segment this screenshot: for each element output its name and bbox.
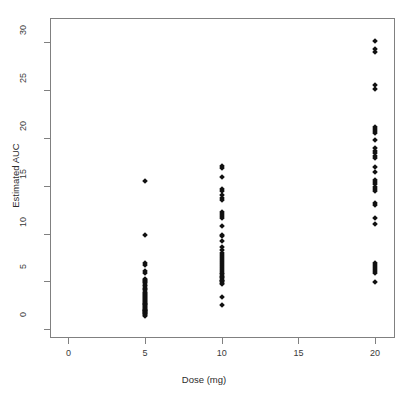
y-tick-mark [44,138,50,139]
y-tick-mark [44,186,50,187]
y-tick-label: 25 [6,84,40,96]
y-tick-label: 0 [6,323,40,335]
y-tick-mark [44,234,50,235]
y-tick-label-text: 25 [17,73,29,107]
x-tick-mark [68,338,69,344]
x-axis-title: Dose (mg) [0,374,408,385]
x-tick-label: 10 [207,348,237,358]
y-tick-label-text: 30 [17,25,29,59]
y-tick-mark [44,281,50,282]
x-tick-mark [222,338,223,344]
scatter-plot-figure: 051015202530 05101520 Estimated AUC Dose… [0,0,408,409]
y-tick-label: 5 [6,275,40,287]
x-tick-label: 0 [53,348,83,358]
y-tick-label-text: 5 [17,264,29,298]
plot-area-box [50,18,395,338]
x-tick-label: 20 [360,348,390,358]
x-tick-mark [375,338,376,344]
y-axis-title: Estimated AUC [10,106,21,246]
y-tick-mark [44,42,50,43]
x-tick-label: 5 [130,348,160,358]
y-tick-label-text: 0 [17,312,29,346]
x-tick-mark [145,338,146,344]
x-tick-label: 15 [283,348,313,358]
y-tick-mark [44,90,50,91]
x-tick-mark [298,338,299,344]
y-tick-mark [44,329,50,330]
y-tick-label: 30 [6,36,40,48]
